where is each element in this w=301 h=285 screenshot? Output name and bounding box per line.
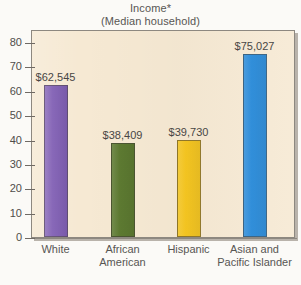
x-axis-label: Asian and Pacific Islander [211,243,299,269]
y-axis-tick-label: 70 [0,61,22,72]
y-axis-tick [25,67,35,68]
bar [177,140,201,237]
x-axis-line [25,238,297,239]
y-axis-tick-label: 20 [0,183,22,194]
y-axis-tick [25,43,35,44]
chart-subtitle: (Median household) [0,15,301,28]
y-axis-tick [25,165,35,166]
y-axis-tick-label: 0 [0,232,22,243]
chart-title-block: Income* (Median household) [0,2,301,28]
bar-shading [45,86,67,236]
y-axis-line [31,30,32,239]
y-axis-tick-label: 80 [0,37,22,48]
y-axis-tick [25,92,35,93]
y-axis-tick [25,189,35,190]
bar-value-label: $39,730 [159,126,219,138]
y-axis-tick-label: 10 [0,208,22,219]
page-title: Income* [0,2,301,15]
y-axis-tick [25,238,35,239]
bar [111,143,135,237]
y-axis-tick [25,116,35,117]
y-axis-tick-label: 50 [0,110,22,121]
bar [243,54,267,237]
bar-value-label: $75,027 [225,40,285,52]
bar-shading [244,55,266,236]
y-axis-tick [25,141,35,142]
y-axis-tick [25,214,35,215]
y-axis-tick-label: 40 [0,135,22,146]
bar-chart: Income* (Median household) 0102030405060… [0,0,301,285]
bar-value-label: $38,409 [93,129,153,141]
bar-shading [112,144,134,236]
y-axis-tick-label: 30 [0,159,22,170]
bar-shading [178,141,200,236]
y-axis-tick-label: 60 [0,86,22,97]
bar-value-label: $62,545 [26,71,86,83]
bar [44,85,68,237]
